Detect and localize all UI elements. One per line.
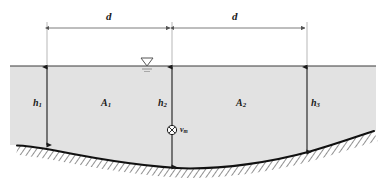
depth-label-h1: h1 (33, 98, 42, 108)
dimension-lines-d (47, 22, 307, 64)
area-label-A1-symbol: A (101, 97, 108, 108)
area-label-A1: A1 (101, 98, 111, 108)
velocity-label-vm: vm (180, 126, 188, 134)
dimension-label-d-right: d (232, 11, 238, 22)
water-table-triangle-icon (141, 58, 153, 66)
depth-label-h2-subscript: 2 (164, 101, 167, 108)
depth-label-h3: h3 (311, 98, 320, 108)
area-label-A2-symbol: A (236, 97, 243, 108)
depth-label-h2: h2 (158, 98, 167, 108)
dimension-label-d-left: d (106, 11, 112, 22)
area-label-A2: A2 (236, 98, 246, 108)
depth-label-h3-symbol: h (311, 97, 317, 108)
dimension-label-d-left-text: d (106, 10, 112, 22)
channel-cross-section-figure: d d h1 h2 h3 A1 A2 vm (0, 0, 385, 185)
depth-label-h2-symbol: h (158, 97, 164, 108)
area-label-A2-subscript: 2 (243, 101, 246, 108)
dimension-label-d-right-text: d (232, 10, 238, 22)
area-label-A1-subscript: 1 (108, 101, 111, 108)
figure-canvas (0, 0, 385, 185)
depth-label-h3-subscript: 3 (317, 101, 320, 108)
velocity-label-vm-subscript: m (184, 128, 188, 134)
mean-velocity-marker (167, 125, 176, 134)
depth-label-h1-symbol: h (33, 97, 39, 108)
depth-label-h1-subscript: 1 (39, 101, 42, 108)
